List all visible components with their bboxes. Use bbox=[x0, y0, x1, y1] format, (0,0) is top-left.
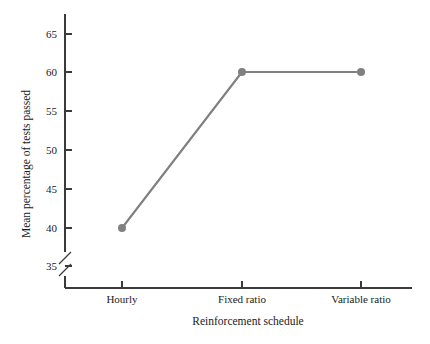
chart-canvas: 65 60 55 50 45 40 35 Hourly Fixed ratio … bbox=[0, 0, 430, 344]
x-axis-title: Reinforcement schedule bbox=[192, 315, 303, 327]
data-point-hourly bbox=[118, 224, 126, 232]
y-axis-title: Mean percentage of tests passed bbox=[20, 90, 33, 238]
y-tick-label-65: 65 bbox=[46, 28, 58, 40]
y-tick-label-40: 40 bbox=[46, 222, 58, 234]
data-point-fixed-ratio bbox=[238, 68, 246, 76]
y-tick-marks bbox=[65, 34, 72, 266]
y-tick-label-60: 60 bbox=[46, 66, 58, 78]
line-chart: 65 60 55 50 45 40 35 Hourly Fixed ratio … bbox=[0, 0, 430, 344]
x-tick-label-fixed-ratio: Fixed ratio bbox=[218, 293, 266, 305]
data-series-line bbox=[122, 72, 361, 228]
y-axis-break-icon bbox=[59, 252, 71, 276]
x-tick-label-variable-ratio: Variable ratio bbox=[331, 293, 391, 305]
y-tick-label-50: 50 bbox=[46, 144, 58, 156]
y-tick-label-55: 55 bbox=[46, 105, 58, 117]
x-tick-marks bbox=[122, 281, 361, 288]
x-tick-label-hourly: Hourly bbox=[106, 293, 138, 305]
y-tick-label-35: 35 bbox=[46, 260, 58, 272]
data-point-variable-ratio bbox=[357, 68, 365, 76]
y-tick-label-45: 45 bbox=[46, 183, 58, 195]
